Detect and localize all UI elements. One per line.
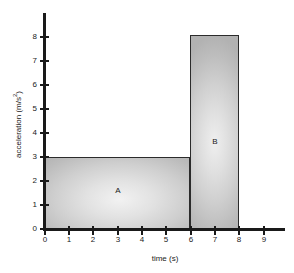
y-tick-6: [40, 84, 49, 86]
x-ticklabel-1: 1: [63, 236, 75, 244]
x-tick-7: [214, 226, 216, 235]
x-ticklabel-3: 3: [112, 236, 124, 244]
x-tick-6: [190, 226, 192, 235]
y-ticklabel-0: 0: [27, 225, 37, 233]
y-tick-5: [40, 108, 49, 110]
acceleration-time-chart: A B 0 1 2 3 4 5 6 7 8: [0, 0, 294, 273]
x-axis-title: time (s): [120, 254, 210, 263]
y-ticklabel-8: 8: [27, 33, 37, 41]
x-tick-0: [44, 226, 46, 235]
bar-a-label: A: [111, 187, 125, 195]
y-tick-1: [40, 204, 49, 206]
y-axis-line: [43, 13, 46, 231]
x-tick-8: [238, 226, 240, 235]
x-axis-line: [43, 228, 285, 231]
bar-b: [190, 35, 239, 230]
x-ticklabel-6: 6: [185, 236, 197, 244]
x-ticklabel-5: 5: [160, 236, 172, 244]
y-ticklabel-5: 5: [27, 105, 37, 113]
x-tick-5: [165, 226, 167, 235]
y-tick-8: [40, 36, 49, 38]
x-ticklabel-7: 7: [209, 236, 221, 244]
bar-b-label: B: [208, 138, 222, 146]
y-tick-7: [40, 60, 49, 62]
x-tick-9: [263, 226, 265, 235]
y-ticklabel-7: 7: [27, 57, 37, 65]
y-tick-3: [40, 156, 49, 158]
x-tick-4: [141, 226, 143, 235]
y-ticklabel-2: 2: [27, 177, 37, 185]
y-axis-title-base: acceleration (m/s: [14, 97, 23, 158]
y-ticklabel-4: 4: [27, 129, 37, 137]
x-tick-1: [68, 226, 70, 235]
y-ticklabel-6: 6: [27, 81, 37, 89]
x-ticklabel-9: 9: [258, 236, 270, 244]
y-ticklabel-3: 3: [27, 153, 37, 161]
x-ticklabel-8: 8: [233, 236, 245, 244]
x-tick-3: [117, 226, 119, 235]
y-axis-title-exponent: 2: [12, 94, 18, 97]
x-ticklabel-4: 4: [136, 236, 148, 244]
y-tick-2: [40, 180, 49, 182]
plot-area: A B 0 1 2 3 4 5 6 7 8: [0, 0, 294, 273]
y-axis-title: acceleration (m/s2): [14, 60, 23, 190]
x-ticklabel-2: 2: [87, 236, 99, 244]
x-tick-2: [92, 226, 94, 235]
y-axis-title-close: ): [14, 91, 23, 94]
y-ticklabel-1: 1: [27, 201, 37, 209]
x-ticklabel-0: 0: [39, 236, 51, 244]
y-tick-4: [40, 132, 49, 134]
